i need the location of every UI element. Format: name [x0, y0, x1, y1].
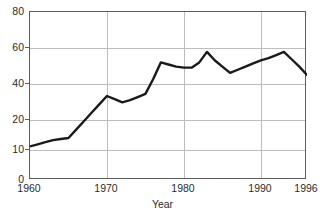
line-chart: 80 60 40 20 10 0 1960 1970 1980 1990 199… — [0, 0, 325, 219]
x-axis-title: Year — [0, 198, 325, 210]
x-tick-label-1990: 1990 — [240, 183, 280, 194]
x-tick-label-1960: 1960 — [9, 183, 49, 194]
y-tick-label-80: 80 — [0, 6, 24, 17]
y-tick-label-20: 20 — [0, 114, 24, 125]
x-tick-label-1996: 1996 — [286, 183, 325, 194]
y-tick-label-10: 10 — [0, 144, 24, 155]
x-tick-label-1970: 1970 — [86, 183, 126, 194]
y-tick-label-40: 40 — [0, 78, 24, 89]
data-series-line — [30, 12, 307, 180]
y-tick-label-60: 60 — [0, 42, 24, 53]
chart-title-clipped — [30, 0, 210, 2]
plot-area — [29, 11, 306, 179]
x-tick-label-1980: 1980 — [163, 183, 203, 194]
